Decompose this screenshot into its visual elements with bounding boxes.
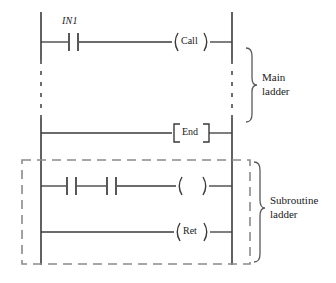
rung4-coil-paren-right <box>204 223 207 241</box>
rung3-coil-paren-right <box>203 177 206 195</box>
contact-label-in1: IN1 <box>62 15 78 26</box>
subroutine-ladder-label-line2: ladder <box>270 208 297 220</box>
subroutine-ladder-label-line1: Subroutine <box>270 194 318 206</box>
rung1-coil-paren-right <box>204 33 207 51</box>
rung2-bracket-left <box>174 124 180 142</box>
subroutine-ladder-brace <box>254 162 265 262</box>
ladder-diagram-canvas: IN1 Call End Ret Main ladder Subroutine … <box>0 0 336 283</box>
main-ladder-label-line2: ladder <box>262 85 289 97</box>
rung2-bracket-right <box>203 124 209 142</box>
rung4-coil-paren-left <box>177 223 180 241</box>
subroutine-dashed-boundary <box>22 160 250 264</box>
main-ladder-brace <box>246 48 257 122</box>
coil-label-ret: Ret <box>183 225 197 236</box>
ladder-diagram-svg <box>0 0 336 283</box>
main-ladder-label-line1: Main <box>262 71 285 83</box>
instruction-label-end: End <box>182 126 198 137</box>
rung3-coil-paren-left <box>179 177 182 195</box>
rung1-coil-paren-left <box>175 33 178 51</box>
coil-label-call: Call <box>181 35 198 46</box>
